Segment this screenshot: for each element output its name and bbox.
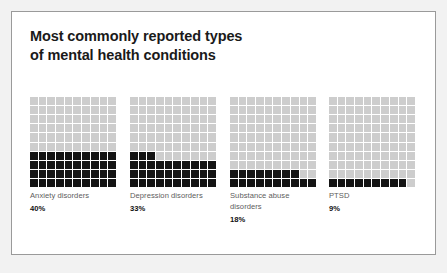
waffle-cell xyxy=(56,124,64,132)
waffle-cell xyxy=(156,124,164,132)
waffle-grid xyxy=(230,97,316,187)
waffle-cell xyxy=(355,143,363,151)
waffle-cell xyxy=(47,133,55,141)
waffle-cell xyxy=(247,179,255,187)
waffle-cell xyxy=(291,115,299,123)
waffle-cell xyxy=(372,143,380,151)
waffle-cell xyxy=(273,115,281,123)
waffle-cell xyxy=(282,106,290,114)
waffle-cell xyxy=(147,133,155,141)
waffle-cell xyxy=(230,161,238,169)
waffle-cell xyxy=(346,97,354,105)
waffle-cell xyxy=(300,170,308,178)
waffle-cell xyxy=(47,152,55,160)
waffle-cell xyxy=(364,106,372,114)
waffle-cell xyxy=(381,170,389,178)
waffle-cell xyxy=(291,170,299,178)
waffle-group-substance-abuse-disorders: Substance abuse disorders 18% xyxy=(230,97,316,187)
waffle-cell xyxy=(407,143,415,151)
waffle-cell xyxy=(239,133,247,141)
waffle-cell xyxy=(39,179,47,187)
waffle-cell xyxy=(200,124,208,132)
waffle-cell xyxy=(239,115,247,123)
waffle-cell xyxy=(191,124,199,132)
waffle-cell xyxy=(108,124,116,132)
waffle-cell xyxy=(156,143,164,151)
waffle-cell xyxy=(82,143,90,151)
waffle-cell xyxy=(390,152,398,160)
waffle-cell xyxy=(165,179,173,187)
waffle-cell xyxy=(390,106,398,114)
waffle-cell xyxy=(265,124,273,132)
waffle-cell xyxy=(381,143,389,151)
waffle-cell xyxy=(65,133,73,141)
waffle-cell xyxy=(39,106,47,114)
value-label: 9% xyxy=(329,203,421,214)
waffle-cell xyxy=(173,133,181,141)
waffle-cell xyxy=(256,143,264,151)
waffle-cell xyxy=(191,152,199,160)
waffle-cell xyxy=(156,133,164,141)
waffle-cell xyxy=(182,124,190,132)
waffle-cell xyxy=(308,143,316,151)
waffle-cell xyxy=(139,179,147,187)
waffle-cell xyxy=(273,152,281,160)
category-label: PTSD xyxy=(329,191,421,202)
waffle-cell xyxy=(108,161,116,169)
waffle-labels: Substance abuse disorders 18% xyxy=(230,191,322,225)
waffle-cell xyxy=(390,179,398,187)
waffle-cell xyxy=(108,106,116,114)
waffle-labels: PTSD 9% xyxy=(329,191,421,214)
waffle-cell xyxy=(265,133,273,141)
waffle-cell xyxy=(147,170,155,178)
waffle-cell xyxy=(165,115,173,123)
waffle-cell xyxy=(208,106,216,114)
waffle-cell xyxy=(346,179,354,187)
waffle-cell xyxy=(56,179,64,187)
waffle-cell xyxy=(390,124,398,132)
waffle-grid xyxy=(30,97,116,187)
waffle-cell xyxy=(30,143,38,151)
waffle-cell xyxy=(399,115,407,123)
waffle-cell xyxy=(355,179,363,187)
waffle-cell xyxy=(364,124,372,132)
waffle-cell xyxy=(355,161,363,169)
waffle-cell xyxy=(390,133,398,141)
waffle-cell xyxy=(30,152,38,160)
waffle-cell xyxy=(173,115,181,123)
waffle-cell xyxy=(372,152,380,160)
waffle-cell xyxy=(139,161,147,169)
waffle-cell xyxy=(346,115,354,123)
waffle-cell xyxy=(200,170,208,178)
waffle-cell xyxy=(73,115,81,123)
waffle-cell xyxy=(256,179,264,187)
waffle-cell xyxy=(30,106,38,114)
waffle-cell xyxy=(100,106,108,114)
waffle-cell xyxy=(39,170,47,178)
waffle-cell xyxy=(239,161,247,169)
waffle-cell xyxy=(200,115,208,123)
waffle-cell xyxy=(282,161,290,169)
waffle-cell xyxy=(73,170,81,178)
waffle-cell xyxy=(200,161,208,169)
waffle-cell xyxy=(39,115,47,123)
waffle-cell xyxy=(247,115,255,123)
waffle-cell xyxy=(191,179,199,187)
waffle-cell xyxy=(372,179,380,187)
waffle-cell xyxy=(291,133,299,141)
waffle-cell xyxy=(65,179,73,187)
waffle-cell xyxy=(364,161,372,169)
waffle-cell xyxy=(390,170,398,178)
waffle-cell xyxy=(291,97,299,105)
waffle-cell xyxy=(73,124,81,132)
waffle-cell xyxy=(282,170,290,178)
waffle-cell xyxy=(329,161,337,169)
waffle-cell xyxy=(108,143,116,151)
waffle-cell xyxy=(329,97,337,105)
waffle-cell xyxy=(399,143,407,151)
waffle-cell xyxy=(182,115,190,123)
waffle-cell xyxy=(200,97,208,105)
waffle-cell xyxy=(91,143,99,151)
waffle-cell xyxy=(407,170,415,178)
waffle-cell xyxy=(390,161,398,169)
